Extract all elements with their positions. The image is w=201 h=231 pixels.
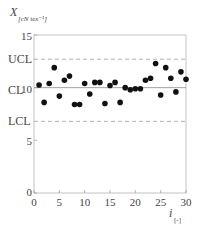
y-tick-15: 15 bbox=[21, 30, 33, 42]
data-point bbox=[62, 77, 68, 83]
ucl-label: UCL bbox=[8, 52, 32, 66]
data-point bbox=[41, 100, 47, 106]
x-tick-15: 15 bbox=[105, 196, 117, 208]
data-point bbox=[67, 73, 73, 79]
x-tick-25: 25 bbox=[155, 196, 167, 208]
x-tick-30: 30 bbox=[181, 196, 193, 208]
data-point bbox=[112, 80, 118, 86]
data-point bbox=[122, 85, 128, 91]
control-chart: 15 10 5 0 UCL CL LCL 0 5 10 15 20 25 30 … bbox=[0, 0, 201, 231]
data-point bbox=[143, 77, 149, 83]
data-point bbox=[82, 81, 88, 87]
x-tick-10: 10 bbox=[79, 196, 91, 208]
data-point bbox=[117, 100, 123, 106]
y-tick-5: 5 bbox=[27, 135, 33, 147]
data-point bbox=[97, 80, 103, 86]
x-axis-unit: [-] bbox=[174, 216, 181, 224]
data-point bbox=[127, 87, 133, 93]
x-tick-labels: 0 5 10 15 20 25 30 bbox=[31, 196, 192, 208]
data-point bbox=[72, 102, 78, 108]
data-point bbox=[158, 92, 164, 98]
x-ticks bbox=[34, 190, 186, 193]
data-point bbox=[36, 82, 42, 88]
x-tick-5: 5 bbox=[57, 196, 63, 208]
data-point bbox=[163, 65, 169, 71]
lcl-label: LCL bbox=[8, 114, 31, 128]
data-point bbox=[92, 80, 98, 86]
data-point bbox=[57, 93, 63, 99]
cl-label: CL bbox=[8, 83, 23, 97]
x-axis-title: i bbox=[169, 206, 172, 220]
data-point bbox=[153, 61, 159, 67]
y-ticks bbox=[34, 35, 37, 193]
data-point bbox=[183, 76, 189, 82]
data-point bbox=[77, 102, 83, 108]
data-point bbox=[107, 83, 113, 89]
x-tick-0: 0 bbox=[31, 196, 37, 208]
data-point bbox=[102, 101, 108, 107]
data-point bbox=[133, 86, 139, 92]
data-point bbox=[138, 86, 144, 92]
data-point bbox=[148, 75, 154, 81]
x-tick-20: 20 bbox=[130, 196, 142, 208]
data-point bbox=[87, 91, 93, 97]
data-point bbox=[51, 65, 57, 71]
data-points bbox=[36, 61, 189, 108]
y-axis-title: X bbox=[9, 5, 18, 19]
data-point bbox=[178, 69, 184, 75]
plot-frame bbox=[34, 35, 186, 193]
data-point bbox=[173, 89, 179, 95]
y-axis-unit: [cN tex⁻¹] bbox=[18, 15, 47, 23]
data-point bbox=[46, 81, 52, 87]
data-point bbox=[168, 75, 174, 81]
